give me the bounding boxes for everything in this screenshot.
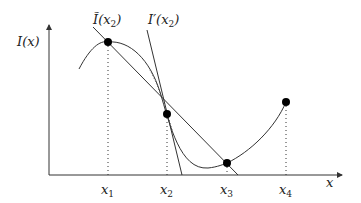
function-curve xyxy=(79,42,286,168)
point-x2 xyxy=(163,110,171,118)
tick-label-x3: x3 xyxy=(220,182,233,199)
secant-label: Ĩ(x2) xyxy=(92,12,121,29)
tick-label-x4: x4 xyxy=(279,182,292,199)
point-x4 xyxy=(282,98,290,106)
tick-label-x2: x2 xyxy=(160,182,173,199)
x-axis-label: x xyxy=(326,175,334,190)
interpolation-diagram: I(x) x Ĩ(x2) I′(x2) x1 x2 x3 x4 xyxy=(0,0,361,203)
secant-line xyxy=(93,27,238,175)
tick-label-x1: x1 xyxy=(101,182,114,199)
tangent-label: I′(x2) xyxy=(147,12,179,29)
point-x1 xyxy=(104,38,112,46)
y-axis-label: I(x) xyxy=(16,34,40,49)
point-x3 xyxy=(223,159,231,167)
tangent-line xyxy=(147,30,182,175)
